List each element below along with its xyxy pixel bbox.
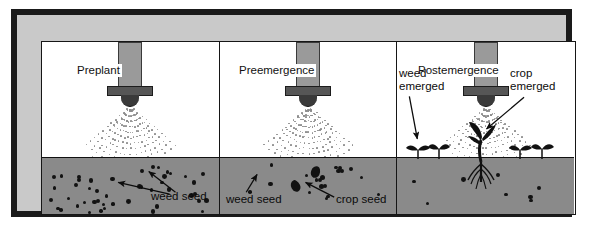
arrow-weed-emerged	[409, 96, 417, 139]
label-crop-seed: crop seed	[336, 193, 387, 206]
label-weed-seed: weed seed	[226, 193, 282, 206]
weed-seed	[326, 195, 329, 198]
panel-caption-preplant: Preplant	[75, 64, 122, 77]
weed-seed	[529, 199, 532, 202]
weed-seed	[88, 187, 92, 191]
weed-seed	[334, 166, 338, 170]
weed-seed	[99, 209, 102, 212]
panel-preemergence: Preemergence weed seed	[219, 42, 396, 214]
weed-seed	[201, 172, 206, 177]
weed-seed	[67, 197, 70, 200]
weed-seed	[126, 199, 131, 204]
weed-seed	[77, 178, 81, 182]
figure-root: Preplant weed seed	[0, 0, 589, 234]
panel-caption-preemergence: Preemergence	[237, 64, 316, 77]
weed-seed	[53, 186, 57, 190]
label-crop-emerged-line1: crop	[510, 67, 555, 80]
weed-seed	[137, 184, 142, 189]
weed-seed	[103, 207, 106, 210]
weed-seed	[412, 180, 415, 183]
weed-seed	[74, 183, 78, 187]
weed-seed	[76, 204, 80, 208]
weed-seed	[360, 176, 363, 179]
weed-seed	[52, 175, 56, 179]
label-crop-emerged: crop emerged	[510, 67, 555, 93]
weed-seed	[340, 169, 344, 173]
crop-seed	[289, 179, 303, 194]
weed-seed	[318, 178, 322, 182]
label-weed-emerged-line1: weed	[399, 67, 444, 80]
weed-seed	[88, 211, 92, 214]
weed-seed	[151, 209, 155, 213]
weed-seed	[528, 195, 533, 200]
nozzle-tip	[299, 95, 317, 107]
nozzle-tip	[477, 95, 495, 107]
weed-seed	[111, 202, 115, 206]
weed-seed	[305, 174, 309, 178]
label-weed-emerged: weed emerged	[399, 67, 444, 93]
label-crop-emerged-line2: emerged	[510, 80, 555, 93]
weed-seed	[49, 198, 53, 202]
label-weed-seed: weed seed	[151, 190, 207, 203]
weed-seed	[201, 210, 204, 213]
weed-seed	[192, 180, 196, 184]
label-weed-emerged-line2: emerged	[399, 80, 444, 93]
weed-seed	[270, 163, 273, 166]
panel-postemergence: Postemergence	[396, 42, 574, 214]
weed-seed	[96, 199, 100, 203]
weed-seed	[184, 175, 187, 178]
weed-seed	[162, 174, 167, 179]
figure-outer-frame: Preplant weed seed	[11, 9, 572, 217]
weed-seed	[140, 169, 144, 173]
weed-seed	[95, 189, 99, 193]
weed-seed	[157, 166, 160, 169]
soil-layer	[42, 157, 219, 214]
nozzle-tip	[121, 95, 139, 107]
weed-seed	[537, 186, 541, 190]
weed-seedling-icon	[427, 141, 451, 164]
weed-seed	[155, 204, 160, 209]
weed-seed	[323, 184, 327, 188]
weed-seed	[83, 201, 87, 205]
weed-seedling-icon	[530, 141, 555, 164]
weed-seed	[308, 191, 311, 194]
crop-seedling-icon	[459, 112, 507, 196]
panel-preplant: Preplant weed seed	[42, 42, 219, 214]
weed-seed	[110, 177, 115, 182]
panel-strip: Preplant weed seed	[41, 41, 576, 215]
weed-seed	[151, 165, 156, 170]
weed-seed	[349, 167, 353, 171]
weed-seed	[426, 202, 429, 205]
weed-seed	[268, 182, 273, 187]
weed-seed	[60, 174, 64, 178]
weed-seed	[102, 203, 105, 206]
weed-seed	[105, 194, 109, 198]
weed-seed	[89, 178, 94, 183]
weed-seed	[160, 181, 164, 185]
